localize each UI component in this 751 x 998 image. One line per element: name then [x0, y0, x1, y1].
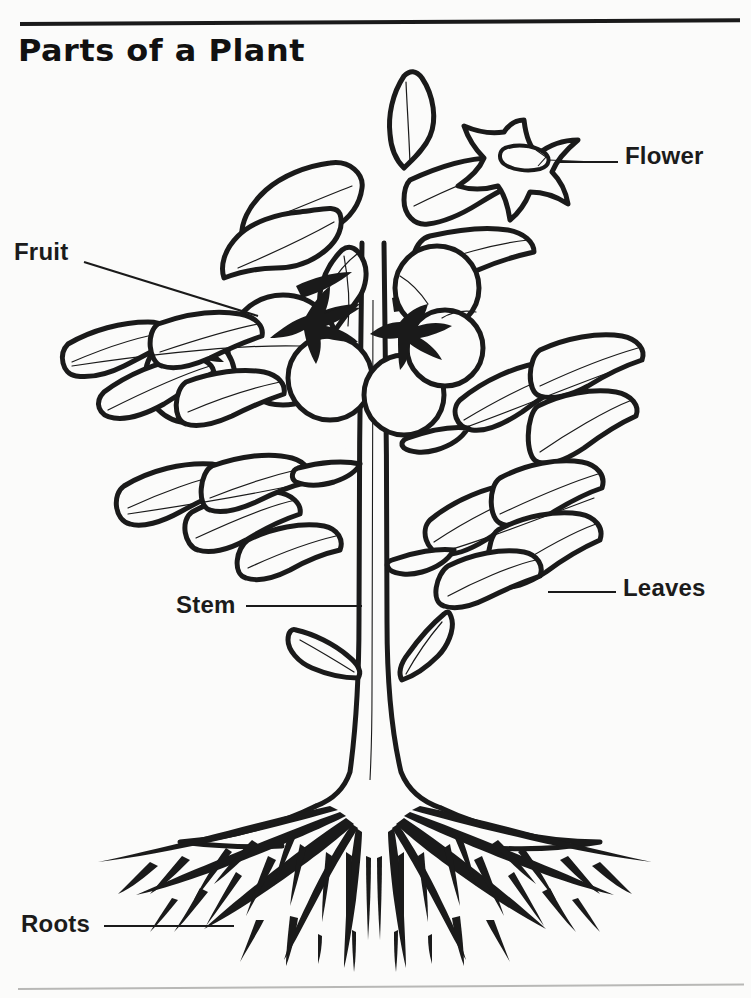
label-leader-lines: [84, 162, 618, 926]
label-leaves: Leaves: [623, 574, 706, 602]
worksheet-page: Parts of a Plant .ink { fill:#1a1a1a; } …: [0, 0, 751, 998]
root-system: [98, 806, 652, 972]
top-divider-rule: [20, 18, 740, 26]
label-stem: Stem: [176, 591, 236, 619]
flower-shape: [458, 120, 596, 220]
leader-line-fruit: [84, 262, 258, 316]
fruit-calyx-group: [160, 286, 452, 378]
stem-shape: [316, 243, 441, 808]
label-flower: Flower: [625, 142, 704, 170]
left-lower-leaf-branch: [116, 455, 360, 579]
label-fruit: Fruit: [14, 238, 68, 266]
upper-leaf-cluster: [223, 72, 534, 332]
right-upper-leaf-branch: [402, 335, 643, 463]
basal-leaf-pair: [288, 612, 452, 680]
left-upper-leaf-branch: [62, 312, 300, 425]
label-roots: Roots: [21, 910, 90, 938]
fruit-cluster: [145, 246, 483, 435]
right-lower-leaf-branch: [387, 461, 603, 608]
page-title: Parts of a Plant: [18, 32, 305, 68]
bottom-divider-rule: [18, 984, 744, 990]
